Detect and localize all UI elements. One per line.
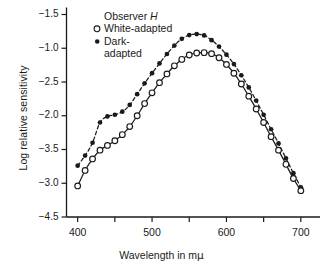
data-point-filled	[276, 141, 281, 146]
data-point-filled	[239, 73, 244, 78]
x-tick-label: 600	[206, 226, 246, 238]
data-point-filled	[120, 109, 125, 114]
data-point-filled	[105, 114, 110, 119]
y-tick-label: −2.0	[19, 109, 59, 120]
data-point-open	[224, 62, 230, 68]
data-point-open	[75, 183, 81, 189]
data-point-filled	[113, 112, 118, 117]
legend-label-dark-adapted-continued: adapted	[104, 47, 142, 59]
x-tick-label: 700	[281, 226, 321, 238]
x-axis-title-unit: μ	[197, 249, 204, 261]
data-point-filled	[98, 120, 103, 125]
data-point-open	[134, 113, 140, 119]
data-point-filled	[127, 103, 132, 108]
data-point-open	[291, 176, 297, 182]
x-axis-title-text: Wavelength in m	[119, 249, 197, 261]
data-point-open	[231, 70, 237, 76]
data-point-open	[261, 120, 267, 126]
data-point-filled	[232, 62, 237, 67]
legend-item-dark-adapted-cont: adapted	[92, 47, 172, 59]
legend-observer-label: Observer H	[104, 10, 158, 22]
open-circle-marker-icon	[92, 22, 104, 34]
data-point-open	[298, 188, 304, 194]
legend-label-dark-adapted: Dark-	[104, 35, 172, 47]
data-point-open	[238, 81, 244, 87]
data-point-filled	[142, 81, 147, 86]
data-point-filled	[217, 44, 222, 49]
data-point-filled	[90, 140, 95, 145]
data-point-open	[172, 63, 178, 69]
data-point-open	[157, 80, 163, 86]
data-point-filled	[269, 127, 274, 132]
data-point-open	[209, 51, 215, 57]
figure-chart: Log relative sensitivity Wavelength in m…	[0, 0, 323, 268]
chart-legend: Observer H White-adapted Dark- adapted	[92, 10, 172, 60]
legend-label-white-adapted: White-adapted	[104, 22, 172, 34]
data-point-filled	[261, 112, 266, 117]
y-tick-label: −2.5	[19, 76, 59, 87]
data-point-open	[283, 162, 289, 168]
x-axis-title: Wavelength in mμ	[0, 249, 323, 261]
data-point-filled	[194, 32, 199, 37]
data-point-filled	[179, 36, 184, 41]
data-point-open	[194, 50, 200, 56]
data-point-open	[276, 147, 282, 153]
y-tick-label: −4.5	[19, 211, 59, 222]
data-point-filled	[254, 98, 259, 103]
y-tick-label: −3.0	[19, 177, 59, 188]
data-point-open	[82, 168, 88, 174]
data-point-filled	[75, 163, 80, 168]
data-point-filled	[135, 92, 140, 97]
data-point-open	[127, 124, 133, 130]
data-point-open	[119, 132, 125, 138]
data-point-open	[112, 138, 118, 144]
data-point-filled	[224, 52, 229, 57]
data-point-filled	[172, 43, 177, 48]
data-point-open	[246, 93, 252, 99]
legend-item-white-adapted: White-adapted	[92, 22, 172, 34]
y-tick-label: −1.5	[19, 8, 59, 19]
data-point-filled	[187, 33, 192, 38]
data-point-open	[90, 156, 96, 162]
data-point-open	[268, 134, 274, 140]
x-tick-label: 400	[58, 226, 98, 238]
data-point-open	[142, 101, 148, 107]
data-point-open	[164, 71, 170, 77]
data-point-open	[105, 143, 111, 149]
y-tick-label: −1.0	[19, 42, 59, 53]
data-point-open	[201, 50, 207, 56]
legend-title-row: Observer H	[92, 10, 172, 22]
data-point-open	[253, 106, 259, 112]
data-point-open	[179, 57, 185, 63]
data-point-filled	[150, 71, 155, 76]
y-tick-label: −3.5	[19, 143, 59, 154]
filled-circle-marker-icon	[92, 35, 104, 47]
data-point-filled	[202, 33, 207, 38]
data-point-open	[216, 55, 222, 61]
data-point-open	[149, 90, 155, 96]
data-point-open	[97, 147, 103, 153]
data-point-open	[186, 52, 192, 58]
x-tick-label: 500	[132, 226, 172, 238]
data-point-filled	[209, 38, 214, 43]
legend-item-dark-adapted: Dark-	[92, 35, 172, 47]
series-white-adapted	[75, 50, 304, 194]
data-point-filled	[246, 85, 251, 90]
data-point-filled	[83, 153, 88, 158]
data-point-filled	[157, 61, 162, 66]
legend-observer-id: H	[150, 10, 158, 22]
